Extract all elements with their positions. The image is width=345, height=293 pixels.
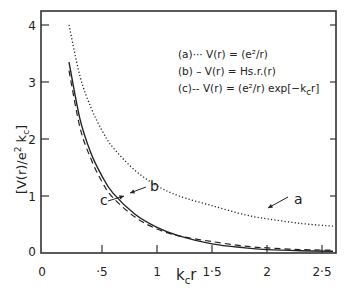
x-axis-label: kcr — [176, 266, 196, 286]
x-tick-label: 1 — [153, 265, 161, 279]
legend-entry-b: (b) – V(r) = Hs.r.(r) — [178, 63, 319, 80]
y-tick-label: 3 — [28, 76, 36, 90]
annotation-label-b: b — [150, 178, 159, 194]
legend-entry-c: (c)-- V(r) = (e²/r) exp[−kcr] — [178, 80, 319, 101]
x-tick-label: 1·5 — [202, 265, 221, 279]
x-tick-label: 2·5 — [312, 265, 331, 279]
y-tick-label: 4 — [28, 19, 36, 33]
x-tick-label: ·5 — [96, 265, 107, 279]
annotation-label-a: a — [294, 191, 303, 207]
y-axis-label: [V(r)/e2 kc] — [13, 104, 32, 214]
legend: (a)··· V(r) = (e²/r) (b) – V(r) = Hs.r.(… — [178, 46, 319, 101]
legend-entry-a: (a)··· V(r) = (e²/r) — [178, 46, 319, 63]
x-tick-label: 0 — [38, 265, 46, 279]
annotation-label-c: c — [100, 192, 108, 208]
chart-area: 0·511·522·501234abc — [0, 0, 345, 293]
plot-svg: 0·511·522·501234abc — [0, 0, 345, 293]
y-tick-label: 0 — [28, 245, 36, 259]
x-tick-label: 2 — [263, 265, 271, 279]
